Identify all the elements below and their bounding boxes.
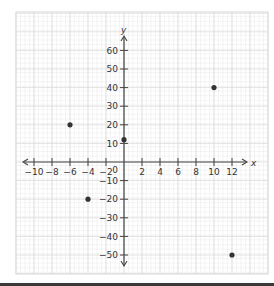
x-tick-label: −4 bbox=[81, 167, 95, 177]
y-tick-label: −30 bbox=[99, 213, 118, 223]
y-tick-label: 20 bbox=[107, 120, 119, 130]
x-tick-label: 4 bbox=[157, 167, 163, 177]
x-tick-label: −6 bbox=[63, 167, 77, 177]
data-point bbox=[229, 252, 234, 257]
data-point bbox=[67, 122, 72, 127]
data-point bbox=[211, 85, 216, 90]
y-tick-label: 40 bbox=[107, 83, 119, 93]
x-tick-label: 2 bbox=[139, 167, 145, 177]
coordinate-plane: xy −10−8−6−4−224681012605040302010−10−20… bbox=[0, 0, 274, 286]
y-tick-label: −10 bbox=[99, 176, 118, 186]
origin-label: 0 bbox=[112, 165, 118, 175]
x-tick-label: 8 bbox=[193, 167, 199, 177]
y-axis-label: y bbox=[120, 25, 127, 35]
x-tick-label: −10 bbox=[25, 167, 44, 177]
data-point bbox=[121, 137, 126, 142]
x-tick-label: −8 bbox=[45, 167, 59, 177]
grid bbox=[16, 12, 268, 274]
x-tick-label: 12 bbox=[226, 167, 237, 177]
x-axis-label: x bbox=[250, 158, 257, 168]
y-tick-label: 50 bbox=[107, 64, 119, 74]
y-tick-label: −50 bbox=[99, 250, 118, 260]
y-tick-label: 10 bbox=[107, 139, 119, 149]
y-tick-label: 30 bbox=[107, 101, 119, 111]
y-tick-label: −20 bbox=[99, 194, 118, 204]
y-tick-label: −40 bbox=[99, 232, 118, 242]
y-tick-label: 60 bbox=[107, 46, 119, 56]
x-tick-label: 6 bbox=[175, 167, 181, 177]
x-tick-label: 10 bbox=[208, 167, 220, 177]
data-point bbox=[85, 197, 90, 202]
